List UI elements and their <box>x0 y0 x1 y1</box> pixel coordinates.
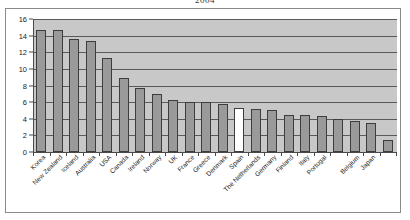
y-tick-label: 12 <box>19 48 27 57</box>
bar <box>251 109 261 152</box>
bar <box>168 100 178 152</box>
y-tick-label: 4 <box>23 114 27 123</box>
bar <box>185 102 195 152</box>
y-axis: 0246810121416 <box>5 19 33 152</box>
y-tick-label: 14 <box>19 31 27 40</box>
y-tick-label: 16 <box>19 15 27 24</box>
bar <box>36 30 46 152</box>
x-axis-label: Finland <box>276 156 296 176</box>
bar <box>350 121 360 152</box>
y-tick-label: 2 <box>23 131 27 140</box>
bar <box>366 123 376 153</box>
y-tick-label: 6 <box>23 98 27 107</box>
y-tick-label: 8 <box>23 81 27 90</box>
bar <box>201 102 211 152</box>
bar <box>267 110 277 152</box>
bar <box>135 88 145 152</box>
x-axis-label-text: Belgium <box>338 154 360 176</box>
bar <box>218 104 228 152</box>
bars-layer <box>33 19 396 152</box>
x-axis-label: Japan <box>362 156 380 174</box>
chart-title: 2004 <box>0 0 410 4</box>
bar <box>234 108 244 152</box>
bar <box>119 78 129 152</box>
x-axis-label-text: Japan <box>359 154 377 172</box>
bar <box>300 115 310 152</box>
bar <box>152 94 162 152</box>
bar <box>383 140 393 152</box>
bar <box>69 39 79 152</box>
x-axis-label-text: UK <box>167 154 178 165</box>
x-tick-mark <box>396 152 397 156</box>
y-tick-label: 0 <box>23 148 27 157</box>
bar <box>53 30 63 152</box>
chart-figure: 2004 0246810121416 KoreaNew ZealandIcela… <box>0 0 410 220</box>
bar <box>317 116 327 152</box>
bar <box>86 41 96 152</box>
y-tick-label: 10 <box>19 64 27 73</box>
bar <box>102 58 112 152</box>
bar <box>284 115 294 152</box>
x-axis-labels: KoreaNew ZealandIcelandAustraliaUSACanad… <box>33 156 396 212</box>
x-axis-label-text: Italy <box>297 154 311 168</box>
bar <box>333 119 343 152</box>
